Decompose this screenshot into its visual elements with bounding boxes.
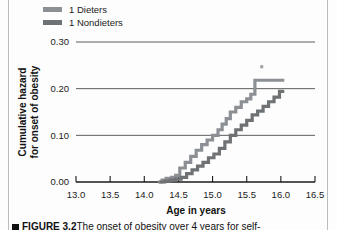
chart-svg: 0.000.100.200.30 13.013.514.014.515.015.… bbox=[0, 0, 337, 230]
chart-annotations bbox=[260, 65, 263, 68]
x-tick-label: 15.0 bbox=[203, 189, 222, 200]
y-axis-title-line1: Cumulative hazard bbox=[17, 68, 28, 157]
cumulative-hazard-chart: 0.000.100.200.30 13.013.514.014.515.015.… bbox=[0, 0, 337, 230]
caption-text: The onset of obesity over 4 years for se… bbox=[76, 221, 260, 230]
x-tick-label: 13.5 bbox=[101, 189, 120, 200]
chart-x-tick-labels: 13.013.514.014.515.015.516.016.5 bbox=[67, 189, 325, 200]
x-tick-label: 16.0 bbox=[272, 189, 291, 200]
x-tick-label: 13.0 bbox=[67, 189, 86, 200]
x-tick-label: 14.0 bbox=[135, 189, 154, 200]
figure-page: 1 Dieters 1 Nondieters 0.000.100.200.30 … bbox=[0, 0, 337, 230]
series-line bbox=[158, 80, 284, 182]
y-tick-label: 0.20 bbox=[51, 83, 70, 94]
chart-x-ticks bbox=[76, 176, 315, 182]
series-line bbox=[159, 91, 284, 182]
caption-bullet-icon bbox=[12, 224, 19, 230]
censor-tick-icon bbox=[260, 65, 263, 68]
y-tick-label: 0.00 bbox=[51, 176, 70, 187]
x-axis-title: Age in years bbox=[166, 205, 226, 216]
y-tick-label: 0.10 bbox=[51, 130, 70, 141]
x-tick-label: 15.5 bbox=[237, 189, 256, 200]
x-tick-label: 14.5 bbox=[169, 189, 188, 200]
chart-gridlines bbox=[76, 42, 315, 182]
caption-line: FIGURE 3.2The onset of obesity over 4 ye… bbox=[12, 221, 325, 230]
y-tick-label: 0.30 bbox=[51, 36, 70, 47]
x-tick-label: 16.5 bbox=[306, 189, 325, 200]
chart-y-tick-labels: 0.000.100.200.30 bbox=[51, 36, 70, 187]
figure-caption: FIGURE 3.2The onset of obesity over 4 ye… bbox=[12, 221, 325, 230]
caption-figure-number: FIGURE 3.2 bbox=[22, 221, 76, 230]
y-axis-title-line2: for onset of obesity bbox=[29, 65, 40, 158]
chart-series bbox=[158, 80, 284, 182]
